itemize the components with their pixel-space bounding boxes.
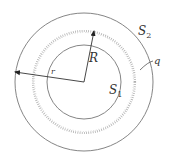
label-R: R	[88, 51, 98, 65]
gauss-law-diagram: R r S1 S2 q	[0, 0, 175, 159]
label-S1: S1	[109, 83, 122, 99]
label-S2: S2	[138, 24, 151, 40]
label-r: r	[51, 67, 56, 76]
radius-r-arrow	[15, 72, 84, 82]
label-q: q	[154, 55, 160, 66]
